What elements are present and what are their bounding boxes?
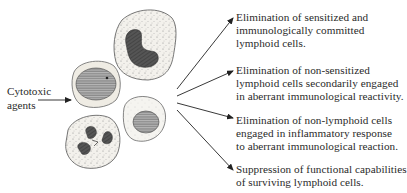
label-line: agents xyxy=(7,98,51,112)
outcome-line: in aberrant immunological reactivity. xyxy=(236,90,404,103)
small-lymphocyte-cell xyxy=(123,96,165,141)
monocyte-cell xyxy=(114,10,176,80)
outcome-line: immunologically committed xyxy=(236,24,368,37)
outcome-4: Suppression of functional capabilities o… xyxy=(236,163,407,189)
neutrophil-cell xyxy=(66,115,120,168)
cytotoxic-agents-label: Cytotoxic agents xyxy=(7,84,51,112)
outcome-2: Elimination of non-sensitized lymphoid c… xyxy=(236,64,404,104)
outcome-3: Elimination of non-lymphoid cells engage… xyxy=(236,114,398,154)
outcome-1: Elimination of sensitized and immunologi… xyxy=(236,11,368,51)
arrow-outcome-2 xyxy=(177,71,233,96)
large-lymphocyte-cell xyxy=(72,61,120,107)
outcome-line: lymphoid cells secondarily engaged xyxy=(236,77,404,90)
outcome-line: Elimination of non-sensitized xyxy=(236,64,404,77)
outcome-line: of surviving lymphoid cells. xyxy=(236,176,407,189)
outcome-line: lymphoid cells. xyxy=(236,37,368,50)
label-line: Cytotoxic xyxy=(7,84,51,98)
outcome-line: Suppression of functional capabilities xyxy=(236,163,407,176)
outcome-line: engaged in inflammatory response xyxy=(236,127,398,140)
outcome-line: Elimination of sensitized and xyxy=(236,11,368,24)
outcome-line: to aberrant immunological reaction. xyxy=(236,140,398,153)
arrow-outcome-1 xyxy=(177,18,233,89)
arrow-outcome-3 xyxy=(177,103,233,118)
arrow-outcome-4 xyxy=(177,110,233,170)
outcome-line: Elimination of non-lymphoid cells xyxy=(236,114,398,127)
